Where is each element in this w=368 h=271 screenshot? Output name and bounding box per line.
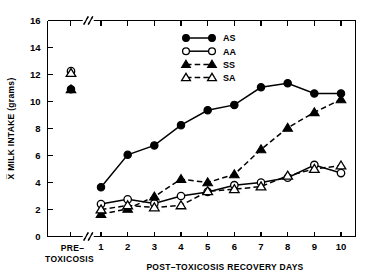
series-as bbox=[97, 80, 344, 191]
y-axis-tick-label: 10 bbox=[30, 96, 41, 107]
series-sa bbox=[96, 161, 346, 213]
axis-spines bbox=[48, 21, 356, 237]
x-axis-tick-label: 2 bbox=[125, 241, 130, 252]
data-point-marker bbox=[97, 184, 104, 191]
legend-label: SA bbox=[223, 73, 236, 83]
x-axis-tick-label: 6 bbox=[232, 241, 237, 252]
y-axis-tick-label: 4 bbox=[35, 177, 41, 188]
legend-item-aa: AA bbox=[183, 47, 237, 57]
legend-label: AA bbox=[223, 47, 236, 57]
data-point-marker bbox=[336, 95, 346, 103]
y-axis-title-text: X̅ MILK INTAKE (grams) bbox=[6, 77, 16, 179]
legend-item-as: AS bbox=[183, 33, 236, 43]
data-point-marker bbox=[150, 192, 160, 200]
data-point-marker bbox=[311, 90, 318, 97]
pre-toxicosis-label-line2: TOXICOSIS bbox=[45, 254, 94, 264]
data-point-marker bbox=[176, 201, 186, 209]
data-point-marker bbox=[257, 84, 264, 91]
y-axis-tick-label: 2 bbox=[35, 204, 40, 215]
data-point-marker bbox=[283, 123, 293, 131]
data-point-marker bbox=[124, 151, 131, 158]
data-point-marker bbox=[209, 35, 216, 42]
data-point-marker bbox=[310, 108, 320, 116]
x-axis-tick-label: 3 bbox=[152, 241, 157, 252]
y-axis-tick-label: 14 bbox=[30, 42, 41, 53]
data-point-marker bbox=[204, 107, 211, 114]
data-point-marker bbox=[183, 35, 190, 42]
x-axis-tick-label: 10 bbox=[336, 241, 347, 252]
chart-series-group bbox=[96, 80, 346, 218]
x-axis-tick-label: 9 bbox=[312, 241, 317, 252]
data-point-marker bbox=[208, 60, 217, 67]
axis-break-mark bbox=[83, 17, 94, 25]
series-aa bbox=[97, 161, 344, 208]
series-line-ss bbox=[101, 99, 341, 214]
y-axis-tick-label: 12 bbox=[30, 69, 41, 80]
series-ss bbox=[96, 95, 346, 218]
chart-figure: 024681012141612345678910 X̅ MILK INTAKE … bbox=[0, 0, 368, 271]
x-axis-tick-label: 7 bbox=[258, 241, 263, 252]
chart-legend: ASAASSSA bbox=[182, 33, 237, 83]
x-axis-title: POST–TOXICOSIS RECOVERY DAYSPRE–TOXICOSI… bbox=[45, 243, 304, 271]
y-axis-tick-label: 6 bbox=[35, 150, 40, 161]
y-axis-title: X̅ MILK INTAKE (grams) bbox=[6, 77, 16, 179]
data-point-marker bbox=[151, 142, 158, 149]
x-axis-tick-label: 5 bbox=[205, 241, 211, 252]
data-point-marker bbox=[176, 175, 186, 183]
pre-toxicosis-label-line1: PRE– bbox=[61, 243, 84, 253]
data-point-marker bbox=[208, 73, 217, 80]
y-axis-tick-label: 16 bbox=[30, 15, 41, 26]
data-point-marker bbox=[203, 178, 213, 186]
legend-label: SS bbox=[223, 60, 235, 70]
x-axis-tick-label: 8 bbox=[285, 241, 290, 252]
legend-item-ss: SS bbox=[182, 60, 235, 70]
y-axis-tick-label: 0 bbox=[35, 231, 40, 242]
series-line-sa bbox=[101, 166, 341, 210]
data-point-marker bbox=[231, 101, 238, 108]
legend-label: AS bbox=[223, 33, 236, 43]
pre-toxicosis-group bbox=[66, 67, 76, 93]
milk-intake-line-chart: 024681012141612345678910 X̅ MILK INTAKE … bbox=[0, 0, 368, 271]
x-axis-tick-label: 4 bbox=[178, 241, 184, 252]
data-point-marker bbox=[336, 161, 346, 169]
data-point-marker bbox=[177, 121, 184, 128]
legend-item-sa: SA bbox=[182, 73, 236, 83]
data-point-marker bbox=[183, 48, 190, 55]
x-axis-tick-label: 1 bbox=[98, 241, 104, 252]
data-point-marker bbox=[284, 80, 291, 87]
axis-break-mark bbox=[83, 233, 94, 241]
x-axis-title-text: POST–TOXICOSIS RECOVERY DAYS bbox=[146, 262, 303, 271]
y-axis-tick-label: 8 bbox=[35, 123, 40, 134]
data-point-marker bbox=[209, 48, 216, 55]
data-point-marker bbox=[337, 169, 344, 176]
data-point-marker bbox=[177, 192, 184, 199]
